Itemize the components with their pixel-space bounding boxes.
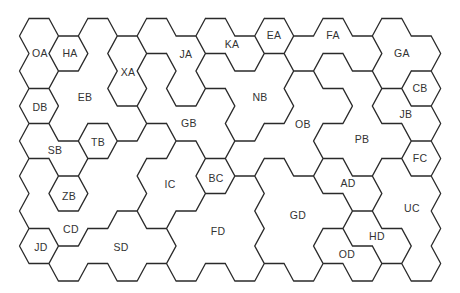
region-label-fd: FD bbox=[211, 225, 226, 237]
region-label-ga: GA bbox=[394, 47, 410, 59]
region-label-jd: JD bbox=[34, 241, 48, 253]
region-label-ic: IC bbox=[164, 178, 175, 190]
region-label-od: OD bbox=[339, 248, 355, 260]
region-label-xa: XA bbox=[121, 66, 136, 78]
region-label-ja: JA bbox=[180, 48, 193, 60]
region-label-ha: HA bbox=[62, 47, 77, 59]
region-label-gd: GD bbox=[290, 209, 306, 221]
region-label-ob: OB bbox=[295, 118, 311, 130]
region-labels: OA HA XA JA KA EA FA GA CB JB EB DB NB G… bbox=[32, 29, 427, 260]
region-label-ka: KA bbox=[225, 38, 240, 50]
region-label-fa: FA bbox=[326, 29, 339, 41]
region-label-cd: CD bbox=[63, 223, 79, 235]
region-label-fc: FC bbox=[413, 152, 428, 164]
region-label-tb: TB bbox=[91, 136, 105, 148]
region-label-ad: AD bbox=[340, 177, 355, 189]
region-label-uc: UC bbox=[404, 202, 420, 214]
region-label-nb: NB bbox=[252, 91, 267, 103]
region-label-zb: ZB bbox=[62, 190, 76, 202]
region-label-jb: JB bbox=[400, 108, 413, 120]
region-label-sd: SD bbox=[113, 241, 128, 253]
region-label-hd: HD bbox=[369, 230, 385, 242]
region-label-oa: OA bbox=[32, 47, 48, 59]
region-label-ea: EA bbox=[267, 29, 282, 41]
hex-region-map: OA HA XA JA KA EA FA GA CB JB EB DB NB G… bbox=[0, 0, 460, 293]
region-label-gb: GB bbox=[181, 117, 197, 129]
region-label-db: DB bbox=[32, 101, 47, 113]
region-label-eb: EB bbox=[78, 91, 93, 103]
region-label-cb: CB bbox=[412, 82, 427, 94]
region-label-pb: PB bbox=[355, 133, 370, 145]
region-label-sb: SB bbox=[48, 144, 63, 156]
region-label-bc: BC bbox=[208, 172, 223, 184]
